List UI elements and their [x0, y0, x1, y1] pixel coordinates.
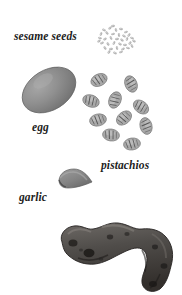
garlic-clove-body: [59, 169, 92, 188]
egg-specimen: [18, 58, 80, 122]
specimen-figure: sesame seeds egg pistachios garlic: [0, 0, 182, 295]
sesame-seeds-specimen: [96, 24, 138, 56]
label-pistachios: pistachios: [101, 160, 149, 172]
ginger-root-specimen: [56, 214, 182, 294]
label-sesame-seeds: sesame seeds: [14, 31, 77, 43]
label-egg: egg: [32, 122, 49, 134]
label-garlic: garlic: [19, 192, 47, 204]
egg-body: [14, 58, 84, 123]
pistachio-kernels: [81, 71, 154, 151]
ginger-root-body: [61, 223, 172, 292]
garlic-specimen: [54, 164, 98, 196]
pistachios-specimen: [82, 68, 162, 154]
sesame-seed-grains: [97, 25, 136, 55]
